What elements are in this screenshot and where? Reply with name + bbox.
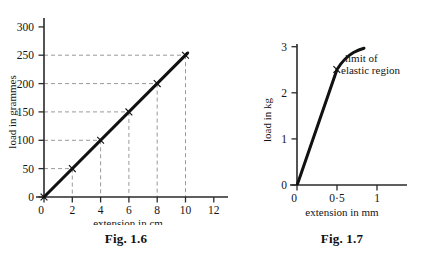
y-axis-ticks [292, 47, 298, 185]
figure-1-6: 0 50 100 150 200 250 300 0 2 4 6 8 10 12… [0, 0, 252, 262]
figure-caption-1-7: Fig. 1.7 [252, 231, 432, 247]
y-axis-title: load in grammes [6, 75, 18, 148]
x-tick-label-0: 0 [291, 192, 297, 204]
y-tick-label-1: 1 [281, 133, 287, 145]
annotation-line-1: limit of [345, 52, 378, 64]
y-tick-label-3: 3 [281, 41, 287, 53]
y-axis-title: load in kg [261, 98, 273, 142]
y-tick-label-200: 200 [17, 78, 35, 90]
x-axis-title: extension in cm [93, 217, 163, 225]
x-tick-label-4: 4 [98, 204, 104, 216]
x-tick-label-6: 6 [126, 204, 132, 216]
y-tick-label-300: 300 [17, 21, 35, 33]
y-tick-label-0: 0 [281, 179, 287, 191]
y-axis-ticks [39, 27, 45, 197]
y-tick-label-150: 150 [17, 106, 35, 118]
y-tick-label-250: 250 [17, 49, 35, 61]
figure-caption-1-6: Fig. 1.6 [0, 231, 252, 247]
annotation-line-2: elastic region [341, 64, 400, 76]
x-axis-title: extension in mm [305, 206, 379, 218]
x-tick-label-12: 12 [208, 204, 220, 216]
chart-load-vs-extension-cm: 0 50 100 150 200 250 300 0 2 4 6 8 10 12… [0, 0, 252, 225]
figure-area: 0 50 100 150 200 250 300 0 2 4 6 8 10 12… [0, 0, 432, 262]
x-axis-ticks [297, 185, 377, 191]
figure-1-7: limit of elastic region 0 1 2 3 0 0·5 1 … [252, 0, 432, 262]
x-tick-label-8: 8 [154, 204, 160, 216]
y-tick-label-50: 50 [23, 163, 35, 175]
y-tick-label-0: 0 [28, 191, 34, 203]
x-tick-label-0: 0 [38, 204, 44, 216]
y-tick-label-2: 2 [281, 87, 287, 99]
x-axis-ticks [44, 197, 214, 203]
y-tick-label-100: 100 [17, 134, 35, 146]
best-fit-line [44, 53, 188, 197]
x-tick-label-2: 2 [69, 204, 75, 216]
x-tick-label-1: 1 [374, 192, 380, 204]
x-tick-label-0-5: 0·5 [329, 192, 345, 204]
chart-load-vs-extension-mm: limit of elastic region 0 1 2 3 0 0·5 1 … [252, 0, 432, 225]
x-tick-label-10: 10 [180, 204, 192, 216]
